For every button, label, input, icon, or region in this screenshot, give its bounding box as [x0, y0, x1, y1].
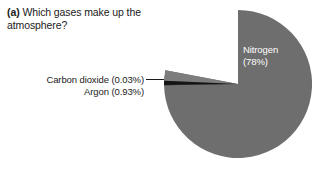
- caption-text: Which gases make up the atmosphere?: [7, 6, 141, 31]
- pie-label-carbon-dioxide: Carbon dioxide (0.03%): [0, 74, 144, 86]
- pie-label-oxygen-percent: (21%): [177, 56, 209, 68]
- pie-label-nitrogen-name: Nitrogen: [243, 44, 278, 56]
- pie-label-oxygen: Oxygen (21%): [177, 44, 209, 67]
- pie-chart: [164, 10, 312, 158]
- pie-label-oxygen-name: Oxygen: [177, 44, 209, 56]
- caption-marker: (a): [7, 6, 20, 18]
- pie-label-nitrogen-percent: (78%): [243, 56, 278, 68]
- figure-pie-atmosphere-composition: (a) Which gases make up the atmosphere? …: [0, 0, 328, 170]
- leader-line-carbon-dioxide: [146, 79, 164, 80]
- figure-caption: (a) Which gases make up the atmosphere?: [7, 6, 157, 32]
- pie-label-nitrogen: Nitrogen (78%): [243, 44, 278, 67]
- pie-label-argon: Argon (0.93%): [0, 86, 144, 98]
- pie-chart-svg: [164, 10, 312, 158]
